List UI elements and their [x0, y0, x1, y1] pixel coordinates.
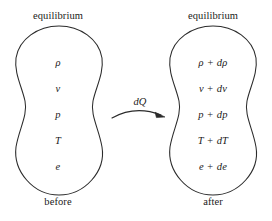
variable-density-perturbed: ρ + dρ [161, 50, 265, 76]
right-state-bottom-label: after [161, 196, 265, 208]
left-state-bottom-label: before [8, 196, 108, 208]
variable-velocity: v [8, 76, 108, 102]
variable-internal-energy: e [8, 154, 108, 180]
left-state-top-label: equilibrium [8, 10, 108, 22]
variable-pressure: p [8, 102, 108, 128]
variable-temperature-perturbed: T + dT [161, 128, 265, 154]
variable-velocity-perturbed: v + dv [161, 76, 265, 102]
heat-transfer-label: dQ [113, 96, 167, 107]
right-state-variable-list: ρ + dρ v + dv p + dp T + dT e + de [161, 50, 265, 180]
variable-temperature: T [8, 128, 108, 154]
variable-pressure-perturbed: p + dp [161, 102, 265, 128]
variable-density: ρ [8, 50, 108, 76]
heat-transfer-arrow-shaft [112, 111, 161, 118]
right-state-top-label: equilibrium [161, 10, 265, 22]
variable-internal-energy-perturbed: e + de [161, 154, 265, 180]
thermodynamic-process-diagram: equilibrium ρ v p T e before dQ equilibr… [0, 0, 272, 221]
left-state-variable-list: ρ v p T e [8, 50, 108, 180]
